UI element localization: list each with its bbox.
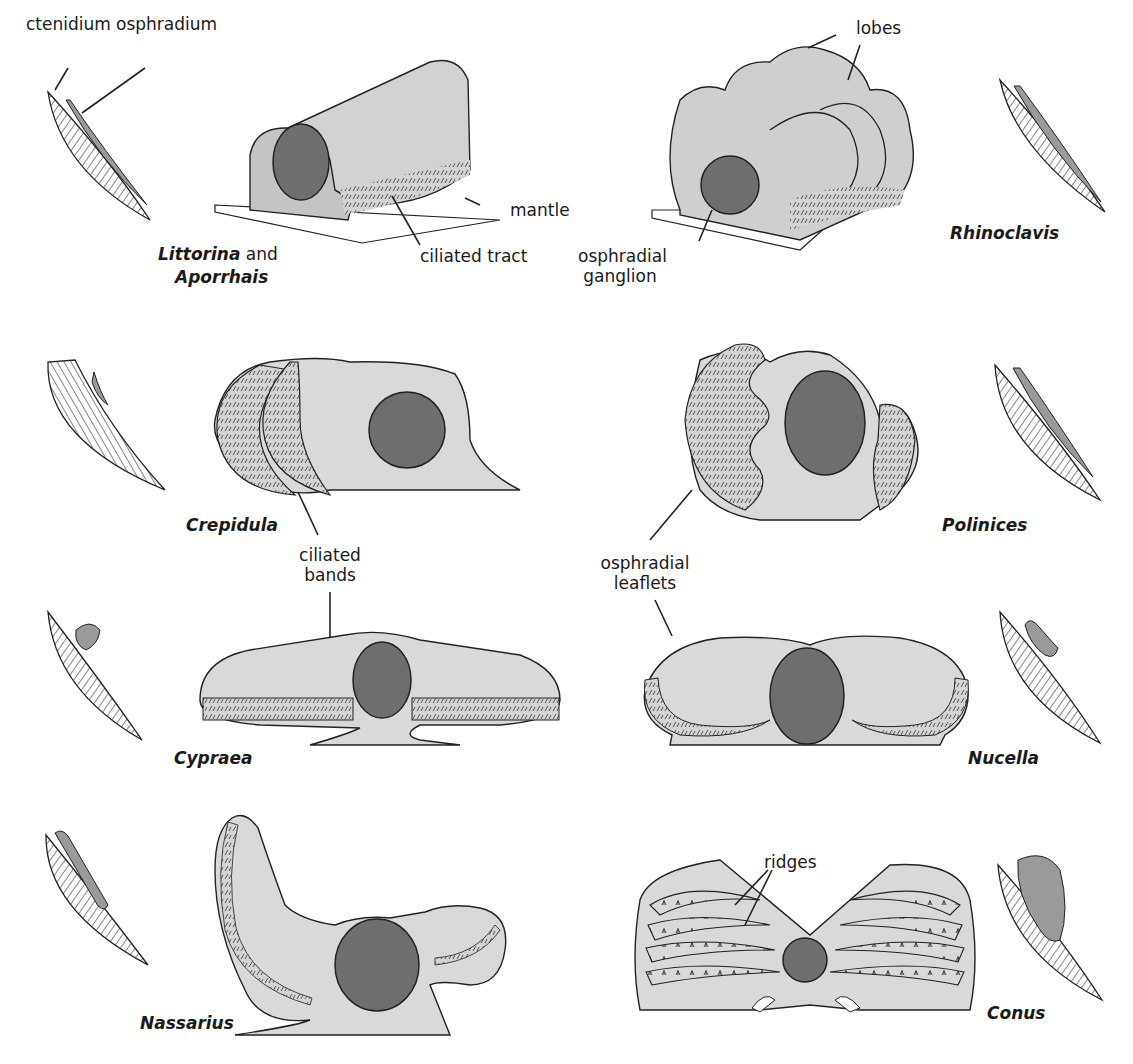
ganglion-icon: [335, 919, 419, 1011]
ganglion-icon: [701, 156, 759, 214]
species-nucella: Nucella: [968, 748, 1039, 768]
panel-crepidula: [48, 359, 520, 536]
species-joiner: and: [246, 244, 278, 264]
ctenidium-icon: [48, 360, 165, 490]
ctenidium-icon: [1000, 612, 1100, 743]
label-ganglion-line2: ganglion: [578, 266, 662, 286]
label-ciliated-tract: ciliated tract: [420, 246, 527, 266]
label-lobes: lobes: [856, 18, 901, 38]
species-conus: Conus: [987, 1003, 1045, 1023]
ganglion-icon: [785, 371, 865, 475]
panel-polinices: [650, 344, 1100, 540]
species-littorina: Littorina: [158, 244, 240, 264]
ganglion-icon: [353, 642, 411, 718]
panel-nassarius: [46, 816, 506, 1035]
label-ridges: ridges: [764, 852, 817, 872]
osphradium-icon: [1014, 86, 1101, 202]
ganglion-icon: [770, 648, 844, 744]
label-leaflets-line1: osphradial: [600, 553, 690, 573]
ctenidium-icon: [995, 365, 1100, 500]
ganglion-icon: [783, 938, 827, 982]
ganglion-icon: [369, 392, 445, 468]
panel-cypraea: [48, 592, 560, 745]
species-aporrhais: Aporrhais: [175, 267, 268, 287]
panel-conus: [635, 856, 1102, 1012]
osphradium-icon: [76, 624, 100, 650]
label-bands-line1: ciliated: [292, 545, 368, 565]
label-bands-line2: bands: [292, 565, 368, 585]
label-osphradium: osphradium: [116, 14, 217, 34]
osphradium-comparison-figure: ctenidium osphradium mantle ciliated tra…: [0, 0, 1133, 1064]
species-polinices: Polinices: [942, 515, 1027, 535]
panel-nucella: [644, 600, 1100, 745]
ganglion-icon: [273, 124, 329, 200]
label-ciliated-bands: ciliated bands: [292, 545, 368, 586]
species-rhinoclavis: Rhinoclavis: [950, 223, 1059, 243]
label-mantle: mantle: [510, 200, 570, 220]
label-osphradial-ganglion: osphradial ganglion: [578, 246, 662, 287]
species-cypraea: Cypraea: [174, 748, 253, 768]
label-leaflets-line2: leaflets: [600, 573, 690, 593]
species-crepidula: Crepidula: [186, 515, 278, 535]
panel-rhinoclavis: [652, 35, 1105, 250]
species-nassarius: Nassarius: [140, 1013, 234, 1033]
panel-littorina: [48, 60, 500, 245]
label-ctenidium: ctenidium: [26, 14, 111, 34]
label-osphradial-leaflets: osphradial leaflets: [600, 553, 690, 594]
species-name-littorina: Littorina and: [158, 244, 278, 264]
label-ganglion-line1: osphradial: [578, 246, 662, 266]
ctenidium-icon: [48, 92, 150, 220]
